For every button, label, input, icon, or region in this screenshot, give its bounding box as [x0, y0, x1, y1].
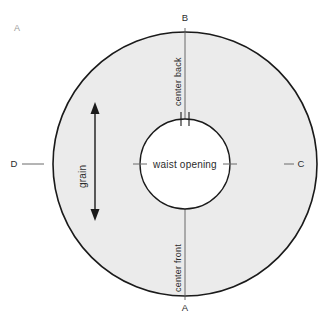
label-grain: grain	[77, 165, 88, 188]
label-center-front: center front	[173, 244, 183, 292]
circle-skirt-pattern-svg: A B A C D center back center front waist…	[0, 0, 318, 321]
point-label-a: A	[182, 302, 189, 313]
point-label-b: B	[182, 12, 189, 23]
label-center-back: center back	[173, 57, 183, 106]
figure-corner-label: A	[14, 23, 20, 33]
label-waist-opening: waist opening	[152, 159, 217, 170]
point-label-c: C	[297, 158, 304, 169]
point-label-d: D	[10, 158, 17, 169]
pattern-diagram-canvas: A B A C D center back center front waist…	[0, 0, 318, 321]
